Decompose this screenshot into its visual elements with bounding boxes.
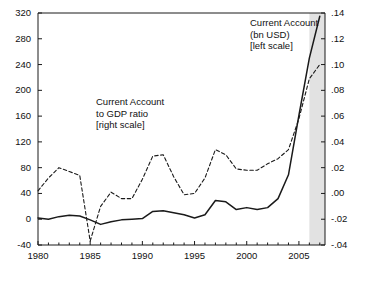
x-axis-tick-label: 2005 [279,250,319,261]
y-axis-right-tick-label: .06 [331,110,344,121]
y-axis-right-tick-label: -.02 [331,213,347,224]
y-axis-right-tick-label: .08 [331,84,344,95]
y-axis-right-tick-label: .10 [331,59,344,70]
x-axis-tick-label: 1985 [70,250,110,261]
y-axis-left-tick-label: 160 [0,110,31,121]
y-axis-left-tick-label: 320 [0,7,31,18]
x-axis-tick-label: 1995 [175,250,215,261]
y-axis-left-tick-label: 240 [0,59,31,70]
x-axis-tick-label: 1990 [122,250,162,261]
y-axis-left-tick-label: 200 [0,84,31,95]
x-axis-tick-label: 2000 [227,250,267,261]
y-axis-left-tick-label: 120 [0,136,31,147]
chart-figure [0,0,376,283]
x-axis-tick-label: 1980 [18,250,58,261]
y-axis-left-tick-label: 280 [0,33,31,44]
y-axis-right-tick-label: .00 [331,187,344,198]
current-account-ratio-annotation: Current Account to GDP ratio [right scal… [96,96,164,131]
y-axis-right-tick-label: .04 [331,136,344,147]
y-axis-left-tick-label: 0 [0,213,31,224]
y-axis-right-tick-label: .02 [331,162,344,173]
y-axis-right-tick-label: .12 [331,33,344,44]
current-account-level-annotation: Current Account (bn USD) [left scale] [250,17,318,52]
y-axis-right-tick-label: .14 [331,7,344,18]
y-axis-left-tick-label: 80 [0,162,31,173]
y-axis-left-tick-label: -40 [0,239,31,250]
y-axis-right-tick-label: -.04 [331,239,347,250]
y-axis-left-tick-label: 40 [0,187,31,198]
